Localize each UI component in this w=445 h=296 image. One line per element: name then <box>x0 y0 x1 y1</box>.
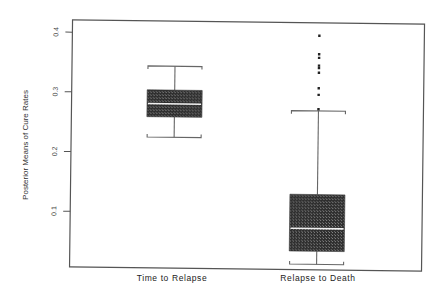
outlier-point <box>318 67 320 69</box>
y-axis-label: Posterior Means of Cure Rates <box>21 90 30 200</box>
outlier-point <box>318 53 320 55</box>
median-line <box>148 104 201 105</box>
x-axis-labels: Time to RelapseRelapse to Death <box>137 273 356 283</box>
boxplot-chart: Posterior Means of Cure Rates 0.10.20.30… <box>0 0 445 296</box>
outlier-point <box>318 87 320 89</box>
iqr-box <box>289 194 345 251</box>
median-line <box>291 228 344 229</box>
upper-whisker <box>317 111 318 195</box>
boxes <box>145 32 347 264</box>
y-tick-label: 0.2 <box>51 146 58 156</box>
outlier-point <box>318 57 320 59</box>
outlier-point <box>318 64 320 66</box>
y-tick-label: 0.3 <box>52 87 59 97</box>
y-tick-label: 0.4 <box>52 27 59 37</box>
x-category-label: Time to Relapse <box>137 273 208 283</box>
plot-area: 0.10.20.30.4 <box>50 20 425 272</box>
x-category-label: Relapse to Death <box>280 273 355 283</box>
y-tick-label: 0.1 <box>50 206 57 216</box>
plot-frame <box>70 20 425 271</box>
outlier-point <box>318 72 320 74</box>
box-1 <box>147 66 203 138</box>
y-axis: 0.10.20.30.4 <box>50 27 72 216</box>
outlier-point <box>317 94 319 96</box>
box-2 <box>289 34 347 265</box>
outlier-point <box>317 108 319 110</box>
outlier-point <box>318 35 320 37</box>
